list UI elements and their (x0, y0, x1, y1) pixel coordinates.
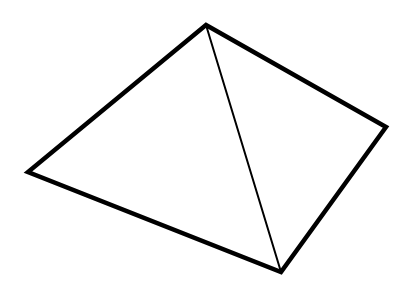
pyramid-diagram (0, 0, 406, 294)
pyramid-outline (28, 25, 386, 272)
pyramid-drawing (0, 0, 406, 294)
